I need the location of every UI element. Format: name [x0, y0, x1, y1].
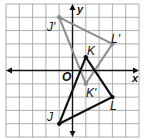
vertex-label-k: K	[87, 44, 96, 58]
vertex-label-l: L	[110, 99, 117, 113]
vertex-label-j-prime: J'	[46, 20, 56, 34]
coordinate-plane: y x O J' L' K' K L J	[0, 0, 147, 140]
x-axis-label: x	[131, 72, 139, 84]
y-axis-label: y	[76, 3, 84, 15]
y-axis-arrow-down-icon	[70, 131, 76, 137]
vertex-label-k-prime: K'	[86, 86, 97, 100]
y-axis-arrow-up-icon	[70, 4, 76, 10]
vertex-point	[57, 122, 61, 126]
x-axis-arrow-left-icon	[6, 68, 12, 74]
vertex-label-l-prime: L'	[111, 32, 121, 46]
origin-label: O	[62, 70, 72, 84]
vertex-point	[57, 15, 61, 19]
vertex-label-j: J	[46, 110, 54, 124]
